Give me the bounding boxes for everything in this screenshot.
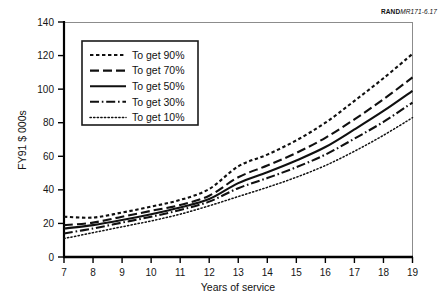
x-tick-label: 13 [233, 267, 245, 278]
y-tick-label: 120 [37, 50, 54, 61]
x-tick-label: 18 [378, 267, 390, 278]
legend-label: To get 50% [132, 80, 185, 92]
legend-label: To get 10% [132, 111, 185, 123]
y-axis-ticks: 020406080100120140 [37, 17, 64, 263]
y-tick-label: 20 [43, 218, 55, 229]
y-axis-title: FY91 $ 000s [16, 110, 28, 170]
y-tick-label: 80 [43, 117, 55, 128]
y-tick-label: 140 [37, 17, 54, 28]
x-axis-title: Years of service [201, 281, 275, 293]
y-tick-label: 40 [43, 184, 55, 195]
x-tick-label: 10 [146, 267, 158, 278]
y-tick-label: 100 [37, 84, 54, 95]
x-tick-label: 9 [119, 267, 125, 278]
x-tick-label: 17 [349, 267, 361, 278]
x-tick-label: 8 [90, 267, 96, 278]
x-tick-label: 12 [204, 267, 216, 278]
figure-container: RANDMR171-6.17 020406080100120140 789101… [0, 0, 443, 305]
x-tick-label: 11 [175, 267, 186, 278]
x-axis-ticks: 78910111213141516171819 [61, 257, 418, 278]
x-tick-label: 19 [407, 267, 419, 278]
legend-label: To get 90% [132, 49, 185, 61]
legend-label: To get 30% [132, 96, 185, 108]
y-tick-label: 60 [43, 151, 55, 162]
y-tick-label: 0 [48, 252, 54, 263]
x-tick-label: 16 [320, 267, 332, 278]
x-tick-label: 14 [262, 267, 274, 278]
x-tick-label: 15 [291, 267, 303, 278]
chart-legend: To get 90%To get 70%To get 50%To get 30%… [82, 41, 198, 125]
legend-label: To get 70% [132, 64, 185, 76]
x-tick-label: 7 [61, 267, 67, 278]
line-chart: 020406080100120140 789101112131415161718… [0, 0, 443, 305]
